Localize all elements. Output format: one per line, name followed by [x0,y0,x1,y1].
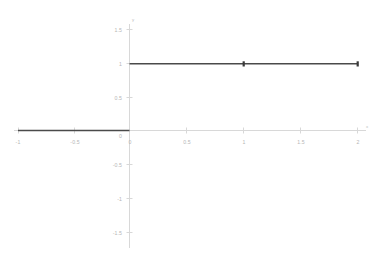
y-tick-label: -0.5 [106,162,122,168]
x-tick-label: -1 [16,139,21,145]
y-tick-label: 0 [106,133,122,139]
plot-canvas: -1 -0.5 0 0.5 1 1.5 2 1.5 1 0.5 0 -0.5 -… [0,0,376,259]
x-tick-label: 2 [357,139,360,145]
plot-graphics [0,0,376,259]
y-axis-label: y [132,17,134,22]
y-tick-label: 0.5 [106,95,122,101]
x-tick-label: 1 [243,139,246,145]
y-tick-label: -1.5 [106,230,122,236]
x-tick-label: 0 [129,139,132,145]
x-tick-label: -0.5 [70,139,79,145]
data-point-marker [243,61,245,66]
x-tick-label: 0.5 [183,139,191,145]
data-point-marker [357,61,359,66]
x-axis-label: x [366,124,368,129]
y-tick-label: 1 [106,61,122,67]
x-tick-label: 1.5 [297,139,305,145]
y-tick-label: 1.5 [106,27,122,33]
y-tick-label: -1 [106,196,122,202]
